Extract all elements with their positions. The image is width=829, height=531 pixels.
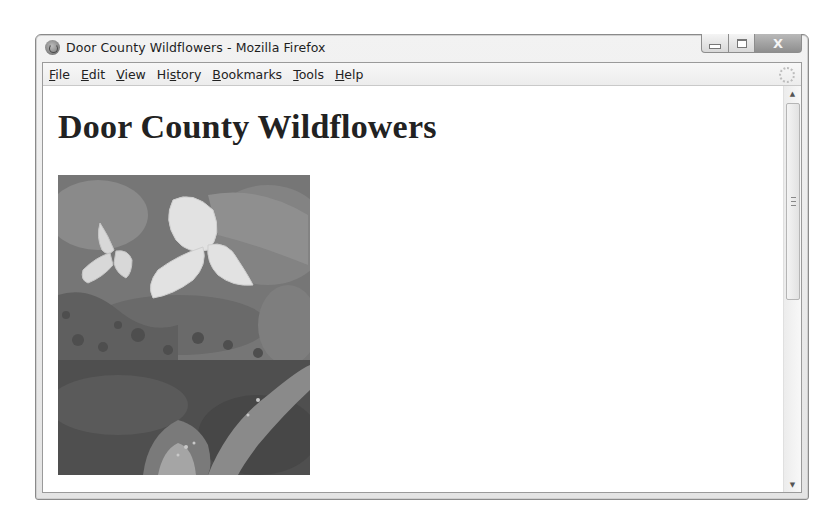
menu-history-label: tory	[176, 67, 201, 82]
menu-tools-label: ools	[299, 67, 324, 82]
firefox-icon	[45, 40, 60, 55]
menu-bookmarks-label: ookmarks	[221, 67, 282, 82]
window-title: Door County Wildflowers - Mozilla Firefo…	[66, 40, 326, 55]
wildflower-photo	[58, 175, 310, 475]
maximize-button[interactable]	[729, 34, 755, 53]
page-content: Door County Wildflowers	[43, 86, 784, 492]
grip-icon	[791, 197, 796, 206]
menu-bar: File Edit View History Bookmarks Tools H…	[43, 63, 801, 86]
scroll-thumb[interactable]	[786, 103, 800, 300]
scroll-up-button[interactable]: ▲	[784, 86, 801, 101]
maximize-icon	[737, 39, 747, 48]
menu-history[interactable]: History	[157, 67, 201, 82]
page-heading: Door County Wildflowers	[58, 108, 437, 146]
arrow-up-icon: ▲	[790, 90, 795, 98]
menu-edit-accel: E	[81, 67, 89, 82]
menu-history-prefix: Hi	[157, 67, 170, 82]
menu-view-label: iew	[124, 67, 145, 82]
menu-edit-label: dit	[89, 67, 105, 82]
menu-bookmarks[interactable]: Bookmarks	[212, 67, 282, 82]
menu-help-label: elp	[344, 67, 363, 82]
menu-help[interactable]: Help	[335, 67, 364, 82]
menu-edit[interactable]: Edit	[81, 67, 105, 82]
menu-view[interactable]: View	[116, 67, 146, 82]
vertical-scrollbar[interactable]: ▲ ▼	[783, 86, 801, 492]
menu-help-accel: H	[335, 67, 344, 82]
minimize-icon	[709, 44, 721, 49]
menu-file-label: ile	[55, 67, 70, 82]
menu-bookmarks-accel: B	[212, 67, 221, 82]
photo-icon	[58, 175, 310, 475]
menu-tools[interactable]: Tools	[293, 67, 324, 82]
close-icon: X	[773, 36, 783, 51]
title-bar[interactable]: Door County Wildflowers - Mozilla Firefo…	[36, 35, 808, 59]
arrow-down-icon: ▼	[790, 481, 795, 489]
window-controls: X	[701, 34, 802, 53]
close-button[interactable]: X	[755, 34, 802, 53]
browser-client-area: File Edit View History Bookmarks Tools H…	[42, 62, 802, 493]
minimize-button[interactable]	[701, 34, 729, 53]
loading-throbber-icon	[779, 67, 795, 83]
browser-window: Door County Wildflowers - Mozilla Firefo…	[35, 34, 809, 500]
scroll-down-button[interactable]: ▼	[784, 477, 801, 492]
menu-file[interactable]: File	[49, 67, 70, 82]
